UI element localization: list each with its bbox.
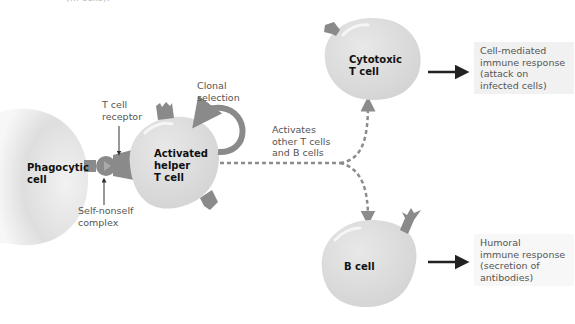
- phagocytic-cell-label: Phagocytic cell: [27, 162, 89, 186]
- clonal-selection-label: Clonal selection: [197, 80, 240, 103]
- cell-mediated-response-box: Cell-mediated immune response (attack on…: [474, 42, 574, 94]
- b-cell-label: B cell: [344, 261, 375, 273]
- activates-label: Activates other T cells and B cells: [272, 124, 330, 159]
- humoral-response-box: Humoral immune response (secretion of an…: [474, 234, 574, 286]
- cytotoxic-t-cell-label: Cytotoxic T cell: [349, 54, 402, 78]
- self-nonself-complex-label: Self-nonself complex: [78, 205, 133, 228]
- b-cell-shape: [322, 208, 421, 307]
- t-cell-receptor-label: T cell receptor: [102, 99, 142, 122]
- helper-t-cell-label: Activated helper T cell: [154, 148, 208, 184]
